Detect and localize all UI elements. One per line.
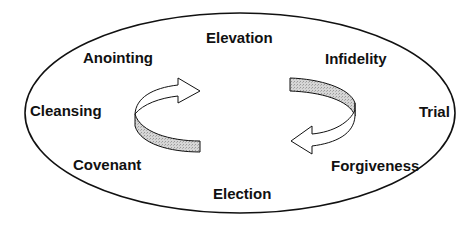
left-cycle-arrow-icon bbox=[135, 78, 200, 152]
label-elevation: Elevation bbox=[206, 30, 273, 45]
label-infidelity: Infidelity bbox=[325, 51, 387, 66]
label-trial: Trial bbox=[419, 104, 450, 119]
right-cycle-arrow-icon bbox=[290, 78, 355, 154]
label-covenant: Covenant bbox=[73, 157, 141, 172]
label-forgiveness: Forgiveness bbox=[331, 158, 419, 173]
label-election: Election bbox=[213, 186, 271, 201]
label-anointing: Anointing bbox=[83, 50, 153, 65]
cycle-diagram: Elevation Infidelity Trial Forgiveness E… bbox=[0, 0, 476, 228]
label-cleansing: Cleansing bbox=[30, 103, 102, 118]
